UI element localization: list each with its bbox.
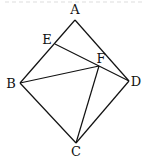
point-label-d: D xyxy=(131,74,141,89)
segment-bc xyxy=(20,83,76,143)
point-label-f: F xyxy=(96,51,105,66)
geometry-diagram: ABCDEF xyxy=(0,0,149,164)
labels: ABCDEF xyxy=(6,2,141,159)
segments xyxy=(20,20,129,143)
point-label-e: E xyxy=(42,32,52,47)
point-label-b: B xyxy=(6,76,16,91)
segment-cf xyxy=(76,66,99,143)
point-label-c: C xyxy=(71,144,81,159)
point-label-a: A xyxy=(69,2,80,17)
segment-ed xyxy=(55,44,129,81)
segment-cd xyxy=(76,81,129,143)
